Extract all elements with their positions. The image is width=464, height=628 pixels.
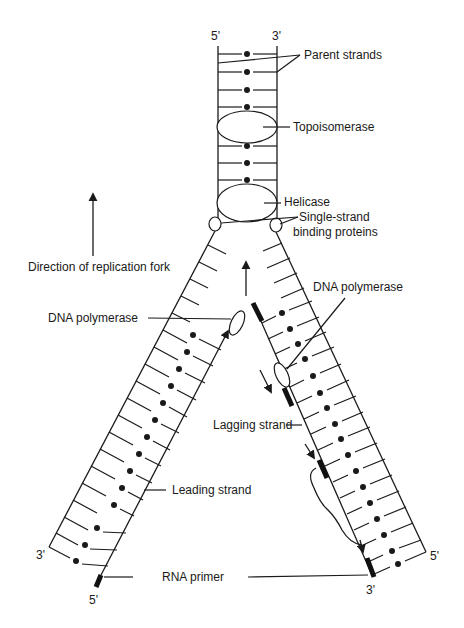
ssb-left-icon xyxy=(209,217,221,231)
right-outer-5prime: 5' xyxy=(430,549,439,563)
left-outer-3prime: 3' xyxy=(36,548,45,562)
rna-primer-lagging-4 xyxy=(367,558,374,577)
svg-text:binding proteins: binding proteins xyxy=(293,225,378,239)
svg-text:Single-strand: Single-strand xyxy=(299,210,370,224)
replication-fork-diagram: 5' 3' Parent strands Topoisomerase Helic… xyxy=(0,0,464,628)
rna-primer-left xyxy=(96,575,101,587)
right-upper-rungs xyxy=(263,243,304,298)
direction-arrow: Direction of replication fork xyxy=(28,194,171,274)
parent-right-3prime: 3' xyxy=(272,29,281,43)
lagging-arrow-1 xyxy=(260,370,271,392)
svg-text:DNA polymerase: DNA polymerase xyxy=(48,311,138,325)
topoisomerase-callout: Topoisomerase xyxy=(263,120,375,134)
rna-primer-callout: RNA primer xyxy=(104,570,368,584)
svg-text:RNA primer: RNA primer xyxy=(162,570,224,584)
svg-text:Leading strand: Leading strand xyxy=(172,483,251,497)
left-upper-rungs xyxy=(172,245,226,322)
dna-polymerase-right: DNA polymerase xyxy=(271,280,403,389)
parent-strands-callout: Parent strands xyxy=(218,48,382,72)
left-arm: 3' 5' xyxy=(36,231,228,607)
svg-text:Parent strands: Parent strands xyxy=(304,48,382,62)
lagging-arrow-2 xyxy=(305,444,314,458)
svg-text:DNA polymerase: DNA polymerase xyxy=(313,280,403,294)
ssb-right-icon xyxy=(270,218,282,232)
left-inner-5prime: 5' xyxy=(89,593,98,607)
left-paired-rungs xyxy=(49,330,221,566)
rna-primer-lagging-1 xyxy=(253,303,262,321)
right-inner-3prime: 3' xyxy=(366,583,375,597)
dna-polymerase-left: DNA polymerase xyxy=(48,309,248,338)
leading-strand-callout: Leading strand xyxy=(144,483,251,497)
parent-left-5prime: 5' xyxy=(211,29,220,43)
svg-text:Topoisomerase: Topoisomerase xyxy=(293,120,375,134)
lagging-strand-callout: Lagging strand xyxy=(213,418,302,432)
svg-text:Lagging strand: Lagging strand xyxy=(213,418,292,432)
svg-text:Direction of replication fork: Direction of replication fork xyxy=(28,260,171,274)
svg-text:Helicase: Helicase xyxy=(284,195,330,209)
